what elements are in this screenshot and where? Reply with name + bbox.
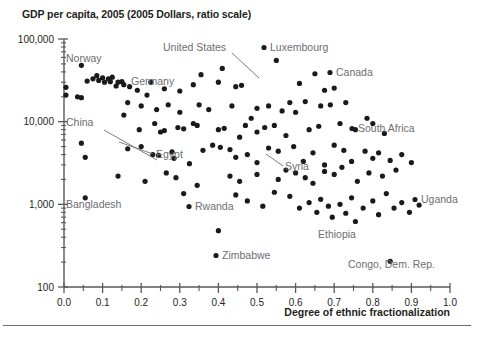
data-point: [262, 125, 267, 130]
data-point: [254, 160, 259, 165]
data-point: [391, 206, 396, 211]
data-point: [216, 228, 221, 233]
y-axis: 100,00010,0001,000100: [18, 34, 68, 293]
x-tick-label: 0.1: [96, 297, 110, 308]
data-point: [108, 79, 113, 84]
data-point: [307, 127, 312, 132]
data-point: [266, 145, 271, 150]
data-point: [343, 211, 348, 216]
data-point: [220, 66, 225, 71]
data-point: [279, 108, 284, 113]
x-tick-label: 0.5: [250, 297, 264, 308]
data-point: [222, 126, 227, 131]
data-point: [79, 95, 84, 100]
data-point: [177, 110, 182, 115]
data-point: [388, 158, 393, 163]
y-tick-label: 1,000: [29, 199, 54, 210]
data-point: [366, 170, 371, 175]
data-point: [326, 204, 331, 209]
data-point: [233, 192, 238, 197]
data-point: [303, 175, 308, 180]
data-point: [152, 121, 157, 126]
data-point: [210, 143, 215, 148]
data-point: [303, 99, 308, 104]
x-axis: 0.00.10.20.30.40.50.60.70.80.91.0: [57, 283, 457, 308]
annotation-label: Zimbabwe: [222, 249, 271, 261]
data-point: [94, 73, 99, 78]
data-point: [318, 103, 323, 108]
data-point: [233, 155, 238, 160]
data-point: [83, 155, 88, 160]
data-point: [125, 146, 130, 151]
y-tick-label: 100,000: [18, 34, 55, 45]
data-point: [254, 129, 259, 134]
x-axis-caption: Degree of ethnic fractionalization: [284, 306, 450, 318]
x-tick-label: 0.4: [211, 297, 225, 308]
data-point: [249, 116, 254, 121]
data-point: [297, 81, 302, 86]
data-point: [355, 179, 360, 184]
data-point: [407, 210, 412, 215]
data-point: [245, 198, 250, 203]
data-point: [322, 162, 327, 167]
data-point: [63, 92, 68, 97]
data-point: [142, 179, 147, 184]
data-point: [283, 133, 288, 138]
annotation-leader-line: [232, 53, 259, 78]
data-point: [272, 190, 277, 195]
data-point: [237, 135, 242, 140]
annotation-label: Luxembourg: [270, 41, 329, 53]
data-point: [162, 128, 167, 133]
data-point: [307, 200, 312, 205]
data-point: [332, 85, 337, 90]
x-tick-label: 0.3: [173, 297, 187, 308]
data-point: [293, 110, 298, 115]
data-point: [376, 150, 381, 155]
data-point: [399, 200, 404, 205]
data-point: [274, 58, 279, 63]
data-point: [376, 212, 381, 217]
data-point: [322, 169, 327, 174]
data-point: [227, 147, 232, 152]
data-point: [227, 173, 232, 178]
data-point: [343, 100, 348, 105]
data-point: [164, 170, 169, 175]
annotation-leader-line: [104, 130, 157, 160]
data-point: [100, 75, 105, 80]
annotation-bullet: [349, 126, 354, 131]
data-point: [181, 191, 186, 196]
data-point: [291, 144, 296, 149]
data-point: [144, 92, 149, 97]
data-point: [310, 150, 315, 155]
data-point: [337, 202, 342, 207]
data-point: [353, 219, 358, 224]
data-point: [191, 82, 196, 87]
data-point: [139, 103, 144, 108]
data-point: [370, 156, 375, 161]
x-tick-label: 0.2: [134, 297, 148, 308]
data-point: [121, 113, 126, 118]
data-point: [276, 177, 281, 182]
data-point: [245, 152, 250, 157]
data-point: [121, 82, 126, 87]
annotation-label: China: [66, 116, 94, 128]
annotation-label: Ethiopia: [318, 228, 356, 240]
data-point: [297, 206, 302, 211]
data-point: [195, 183, 200, 188]
annotation-bullet: [327, 70, 332, 75]
x-tick-label: 0.0: [57, 297, 71, 308]
annotation-label: Uganda: [421, 193, 458, 205]
data-point: [339, 165, 344, 170]
data-point: [63, 85, 68, 90]
data-point: [216, 80, 221, 85]
data-point: [316, 124, 321, 129]
data-point: [243, 123, 248, 128]
annotation-label: Rwanda: [195, 200, 234, 212]
data-point: [198, 72, 203, 77]
data-point: [187, 161, 192, 166]
data-point: [181, 126, 186, 131]
data-point: [287, 100, 292, 105]
annotation-label: Germany: [131, 75, 175, 87]
data-point: [276, 149, 281, 154]
data-point: [137, 127, 142, 132]
